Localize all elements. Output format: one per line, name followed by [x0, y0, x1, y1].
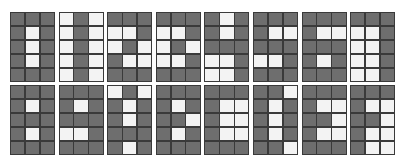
grid-cell — [254, 128, 267, 140]
grid-cell — [303, 27, 316, 39]
grid-cell — [60, 13, 73, 25]
grid-cell — [254, 13, 267, 25]
grid-cell — [89, 114, 102, 126]
grid-cell — [220, 27, 233, 39]
grid-cell — [41, 41, 54, 53]
grid-cell — [74, 69, 87, 81]
grid-cell — [366, 13, 379, 25]
grid-cell — [351, 41, 364, 53]
grid-cell — [157, 114, 170, 126]
grid-cell — [138, 13, 151, 25]
grid-cell — [284, 69, 297, 81]
grid-cell — [317, 55, 330, 67]
grid-cell — [186, 142, 199, 154]
grid-cell — [89, 55, 102, 67]
grid-cell — [332, 86, 345, 98]
grid-cell — [108, 142, 121, 154]
glyph-grid-15 — [302, 85, 347, 155]
grid-cell — [89, 142, 102, 154]
grid-cell — [74, 100, 87, 112]
grid-cell — [11, 100, 24, 112]
grid-cell — [157, 100, 170, 112]
grid-cell — [11, 27, 24, 39]
grid-cell — [41, 13, 54, 25]
grid-cell — [172, 86, 185, 98]
grid-cell — [123, 27, 136, 39]
grid-cell — [303, 86, 316, 98]
grid-cell — [157, 128, 170, 140]
grid-cell — [11, 86, 24, 98]
grid-cell — [26, 27, 39, 39]
grid-cell — [74, 27, 87, 39]
grid-cell — [381, 27, 394, 39]
grid-cell — [317, 142, 330, 154]
grid-cell — [317, 100, 330, 112]
glyph-grid-7 — [302, 12, 347, 82]
grid-cell — [381, 86, 394, 98]
grid-cell — [26, 55, 39, 67]
glyph-board — [10, 12, 395, 155]
grid-cell — [60, 55, 73, 67]
grid-cell — [220, 86, 233, 98]
grid-cell — [186, 41, 199, 53]
grid-cell — [138, 128, 151, 140]
grid-cell — [89, 27, 102, 39]
grid-cell — [60, 142, 73, 154]
glyph-grid-13 — [204, 85, 249, 155]
grid-cell — [381, 142, 394, 154]
grid-cell — [220, 100, 233, 112]
grid-cell — [157, 142, 170, 154]
grid-cell — [284, 55, 297, 67]
grid-cell — [366, 41, 379, 53]
grid-cell — [235, 86, 248, 98]
grid-cell — [205, 142, 218, 154]
grid-cell — [381, 55, 394, 67]
grid-cell — [138, 41, 151, 53]
grid-cell — [254, 69, 267, 81]
grid-cell — [284, 41, 297, 53]
grid-cell — [138, 86, 151, 98]
grid-cell — [332, 114, 345, 126]
grid-cell — [41, 69, 54, 81]
grid-cell — [351, 13, 364, 25]
grid-cell — [89, 13, 102, 25]
grid-cell — [254, 27, 267, 39]
grid-cell — [317, 69, 330, 81]
grid-cell — [303, 41, 316, 53]
grid-cell — [41, 128, 54, 140]
grid-cell — [89, 100, 102, 112]
grid-cell — [172, 114, 185, 126]
grid-cell — [332, 69, 345, 81]
grid-cell — [123, 142, 136, 154]
grid-cell — [220, 41, 233, 53]
grid-cell — [26, 142, 39, 154]
grid-cell — [205, 100, 218, 112]
grid-cell — [205, 13, 218, 25]
grid-cell — [41, 55, 54, 67]
grid-cell — [303, 13, 316, 25]
grid-cell — [269, 69, 282, 81]
grid-cell — [138, 100, 151, 112]
glyph-grid-12 — [156, 85, 201, 155]
grid-cell — [254, 114, 267, 126]
grid-cell — [60, 41, 73, 53]
grid-cell — [138, 69, 151, 81]
grid-cell — [123, 41, 136, 53]
grid-cell — [205, 114, 218, 126]
grid-cell — [60, 128, 73, 140]
grid-cell — [269, 100, 282, 112]
grid-cell — [186, 128, 199, 140]
grid-cell — [269, 27, 282, 39]
grid-cell — [332, 41, 345, 53]
grid-cell — [41, 100, 54, 112]
grid-cell — [317, 114, 330, 126]
grid-cell — [332, 55, 345, 67]
glyph-grid-9 — [10, 85, 55, 155]
grid-cell — [26, 128, 39, 140]
grid-cell — [89, 86, 102, 98]
grid-cell — [269, 13, 282, 25]
grid-cell — [186, 86, 199, 98]
grid-cell — [366, 55, 379, 67]
grid-cell — [123, 69, 136, 81]
grid-cell — [186, 27, 199, 39]
